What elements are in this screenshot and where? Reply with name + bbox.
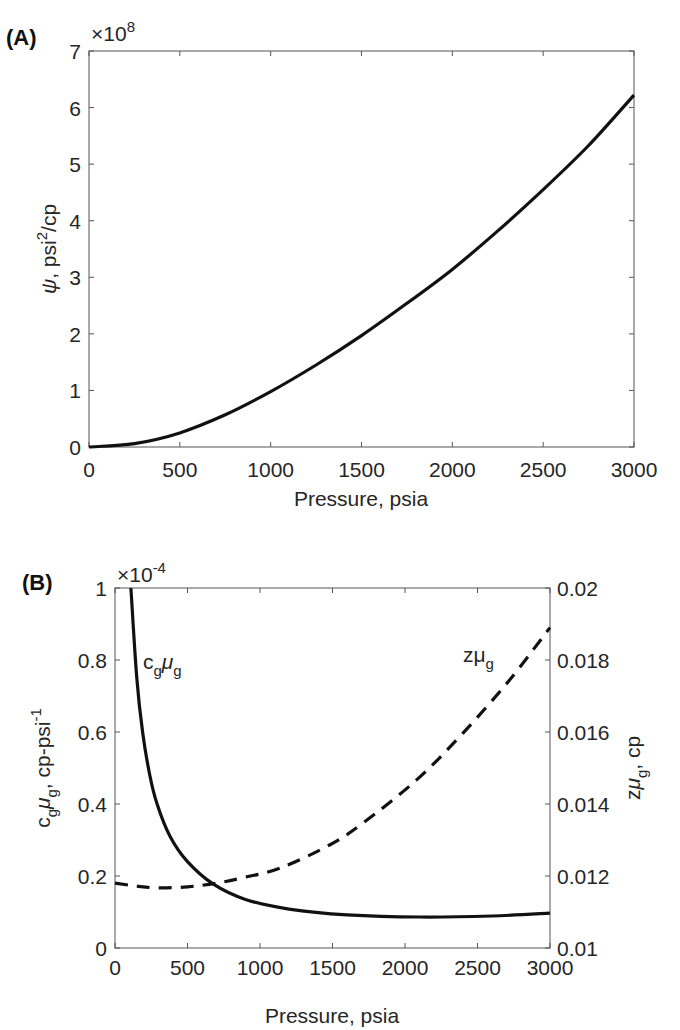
x-tick-label: 500 xyxy=(162,458,197,481)
cg-mug-curve xyxy=(131,588,550,917)
right-y-tick-label: 0.01 xyxy=(557,937,598,960)
y-tick-label: 7 xyxy=(69,40,81,63)
left-y-tick-label: 0.8 xyxy=(78,649,107,672)
panel-b-xlabel: Pressure, psia xyxy=(265,1004,400,1027)
panel-a-xlabel: Pressure, psia xyxy=(294,487,429,510)
cg-mug-annotation: cgμg xyxy=(143,650,182,679)
right-y-tick-label: 0.018 xyxy=(557,649,610,672)
panel-a-axes-box xyxy=(89,51,634,447)
x-tick-label: 500 xyxy=(170,956,205,979)
x-tick-label: 3000 xyxy=(611,458,658,481)
right-y-tick-label: 0.012 xyxy=(557,865,610,888)
y-tick-label: 3 xyxy=(69,266,81,289)
x-tick-label: 2500 xyxy=(454,956,501,979)
x-tick-label: 1500 xyxy=(309,956,356,979)
panel-b-right-ylabel: zμg, cp xyxy=(621,736,650,800)
y-tick-label: 0 xyxy=(69,436,81,459)
y-tick-label: 6 xyxy=(69,97,81,120)
panel-b: (B) ×10-4 05001000150020002500300000.20.… xyxy=(22,559,650,1027)
x-tick-label: 2000 xyxy=(429,458,476,481)
x-tick-label: 2000 xyxy=(382,956,429,979)
left-y-tick-label: 0.2 xyxy=(78,865,107,888)
panel-a-ticks: 05001000150020002500300001234567 xyxy=(69,40,657,481)
panel-b-ticks: 05001000150020002500300000.20.40.60.810.… xyxy=(78,577,610,979)
left-y-tick-label: 0.6 xyxy=(78,721,107,744)
right-y-tick-label: 0.02 xyxy=(557,577,598,600)
panel-b-axes-box xyxy=(115,588,550,948)
left-y-tick-label: 1 xyxy=(95,577,107,600)
psi-curve xyxy=(89,95,634,447)
left-y-tick-label: 0.4 xyxy=(78,793,108,816)
y-tick-label: 2 xyxy=(69,323,81,346)
z-mug-annotation: zμg xyxy=(463,643,494,672)
x-tick-label: 1500 xyxy=(338,458,385,481)
x-tick-label: 1000 xyxy=(237,956,284,979)
panel-b-left-ylabel: cgμg, cp-psi-1 xyxy=(27,708,60,828)
left-y-tick-label: 0 xyxy=(95,937,107,960)
right-y-tick-label: 0.016 xyxy=(557,721,610,744)
y-tick-label: 5 xyxy=(69,153,81,176)
x-tick-label: 0 xyxy=(83,458,95,481)
right-y-tick-label: 0.014 xyxy=(557,793,610,816)
x-tick-label: 1000 xyxy=(247,458,294,481)
figure: (A) ×108 0500100015002000250030000123456… xyxy=(0,0,680,1030)
y-tick-label: 1 xyxy=(69,379,81,402)
y-tick-label: 4 xyxy=(69,210,81,233)
panel-a-ylabel: ψ, psi2/cp xyxy=(33,204,60,294)
panel-a: (A) ×108 0500100015002000250030000123456… xyxy=(6,18,657,510)
panel-a-exponent: ×108 xyxy=(91,18,135,45)
x-tick-label: 0 xyxy=(109,956,121,979)
panel-b-label: (B) xyxy=(22,570,53,595)
panel-b-exponent: ×10-4 xyxy=(117,559,166,586)
x-tick-label: 2500 xyxy=(520,458,567,481)
panel-a-label: (A) xyxy=(6,25,37,50)
